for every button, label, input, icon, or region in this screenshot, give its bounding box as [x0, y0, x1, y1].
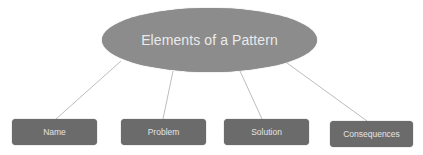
child-node-label: Name — [43, 127, 66, 137]
child-node-name: Name — [12, 119, 97, 145]
diagram-canvas: Elements of a Pattern Name Problem Solut… — [0, 0, 423, 155]
child-node-consequences: Consequences — [330, 121, 413, 147]
child-node-solution: Solution — [224, 119, 309, 145]
child-node-label: Consequences — [343, 129, 400, 139]
connector-root-to-name — [56, 61, 121, 119]
connector-root-to-problem — [163, 71, 173, 119]
connector-root-to-consequences — [287, 63, 367, 121]
child-node-label: Solution — [251, 127, 282, 137]
connector-root-to-solution — [240, 71, 262, 119]
root-node-ellipse: Elements of a Pattern — [102, 8, 317, 72]
child-node-problem: Problem — [121, 119, 206, 145]
child-node-label: Problem — [148, 127, 180, 137]
root-node-label: Elements of a Pattern — [141, 32, 278, 48]
